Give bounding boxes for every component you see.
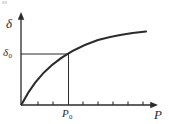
x-axis-tick-label-subscript: 0 xyxy=(69,113,73,120)
curve-delta-vs-pressure xyxy=(22,32,147,105)
x-axis-label: P xyxy=(154,108,162,121)
y-axis-tick-label-delta0: δ0 xyxy=(3,47,12,59)
y-axis-tick-label-subscript: 0 xyxy=(8,52,12,59)
y-axis-label: δ xyxy=(6,17,12,30)
axes-group xyxy=(21,19,151,105)
x-axis-tick-label-base: P xyxy=(62,107,69,119)
plot-canvas xyxy=(0,0,169,124)
guide-lines-group xyxy=(21,54,69,105)
figure-container: δ δ0 P P0 xyxy=(0,0,169,124)
y-axis-label-text: δ xyxy=(6,16,12,31)
x-axis-label-text: P xyxy=(154,107,162,122)
x-axis-tick-label-p0: P0 xyxy=(62,108,72,120)
